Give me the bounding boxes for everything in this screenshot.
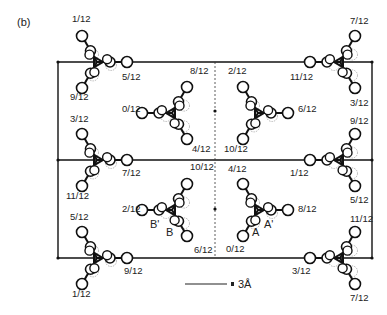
fraction-label: 10/12 xyxy=(224,143,248,154)
fraction-label: 0/12 xyxy=(226,243,245,254)
fraction-label: 11/12 xyxy=(350,213,373,224)
molecule xyxy=(137,82,193,145)
fraction-label: 5/12 xyxy=(70,211,89,222)
site-label: A xyxy=(252,226,260,238)
fraction-label: 9/12 xyxy=(124,265,143,276)
fraction-label: 4/12 xyxy=(228,163,247,174)
site-label: A' xyxy=(264,218,273,230)
fraction-label: 6/12 xyxy=(194,244,213,255)
fraction-label: 1/12 xyxy=(72,13,91,24)
crystal-packing-diagram: (b) 1/125/129/127/1211/123/128/120/124/1… xyxy=(0,0,387,315)
scale-bar-label: 3Å xyxy=(238,278,252,290)
fraction-label: 7/12 xyxy=(122,167,141,178)
fraction-label: 0/12 xyxy=(122,103,141,114)
fraction-label: 11/12 xyxy=(66,190,89,201)
scale-bar: 3Å xyxy=(185,278,252,290)
site-label: B xyxy=(166,226,173,238)
fraction-label: 5/12 xyxy=(122,71,141,82)
molecule xyxy=(238,179,294,242)
fraction-label: 4/12 xyxy=(192,143,211,154)
fraction-label: 1/12 xyxy=(72,288,91,299)
site-label: B' xyxy=(150,218,159,230)
fraction-label: 9/12 xyxy=(350,115,369,126)
fraction-label: 5/12 xyxy=(350,194,369,205)
fraction-label: 8/12 xyxy=(190,65,209,76)
fraction-label: 3/12 xyxy=(350,97,369,108)
fraction-label: 3/12 xyxy=(292,265,311,276)
fraction-label: 7/12 xyxy=(350,292,369,303)
fraction-label: 6/12 xyxy=(298,103,317,114)
fraction-label: 10/12 xyxy=(190,161,214,172)
fraction-label: 1/12 xyxy=(290,167,309,178)
fraction-label: 11/12 xyxy=(290,71,313,82)
fraction-label: 7/12 xyxy=(350,15,369,26)
fraction-label: 2/12 xyxy=(122,203,141,214)
fraction-label: 3/12 xyxy=(70,113,89,124)
fraction-label: 2/12 xyxy=(228,65,247,76)
fraction-label: 8/12 xyxy=(298,203,317,214)
panel-label: (b) xyxy=(17,16,30,28)
fraction-label: 9/12 xyxy=(70,91,89,102)
molecule xyxy=(238,82,294,145)
molecule xyxy=(137,179,193,242)
